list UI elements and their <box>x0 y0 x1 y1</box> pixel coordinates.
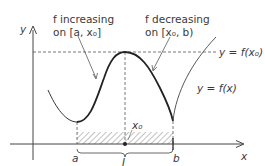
x-axis-label: x <box>241 150 247 162</box>
b-label: b <box>173 152 180 164</box>
decreasing-label-line1: f decreasing <box>145 13 210 25</box>
max-line-label: y = f(x₀) <box>219 46 263 58</box>
x0-label: x₀ <box>132 119 142 131</box>
decreasing-label-line2: on [x₀, b) <box>145 26 193 38</box>
increasing-leader <box>78 36 96 78</box>
a-label: a <box>72 152 78 164</box>
interval-label: I <box>122 156 125 166</box>
curve-left-segment <box>48 90 77 122</box>
y-axis-label: y <box>20 23 26 35</box>
curve-label: y = f(x) <box>197 82 237 94</box>
x0-point <box>123 142 127 146</box>
increasing-label-line1: f increasing <box>53 13 114 25</box>
decreasing-arrow-icon <box>152 65 157 71</box>
decreasing-leader <box>153 37 170 70</box>
increasing-label-line2: on [a, x₀] <box>53 26 101 38</box>
curve-right-segment <box>173 37 216 121</box>
